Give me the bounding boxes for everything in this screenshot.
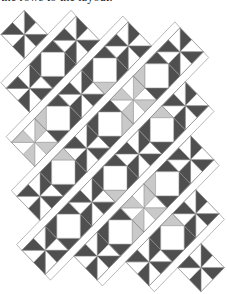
center-square [98,112,121,136]
center-square [161,226,184,250]
page: the rows to the layout. [0,0,227,294]
center-square [52,160,75,184]
center-square [93,58,116,82]
center-square [104,166,127,190]
center-square [46,106,69,130]
center-square [145,64,168,88]
quilt-layout-diagram [0,0,227,294]
center-square [150,118,173,142]
center-square [41,52,64,76]
center-square [109,220,132,244]
center-square [156,172,179,196]
center-square [57,214,80,238]
